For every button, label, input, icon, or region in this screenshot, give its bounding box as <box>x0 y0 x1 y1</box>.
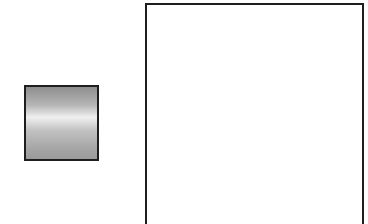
gradient-block <box>24 85 99 161</box>
large-rectangle <box>145 3 364 224</box>
